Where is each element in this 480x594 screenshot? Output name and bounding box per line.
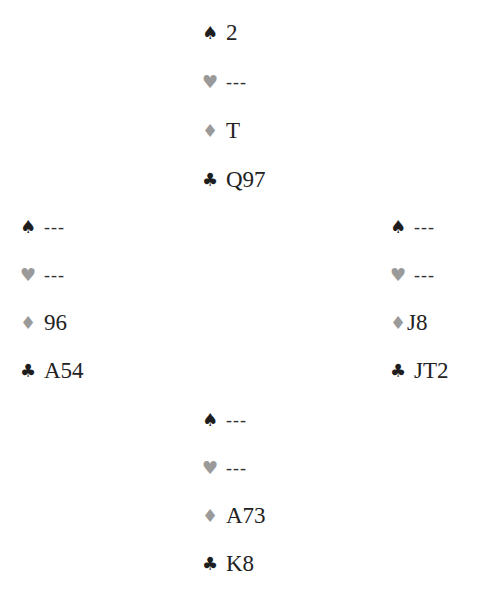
east-clubs-cards[interactable]: JT2: [414, 356, 449, 386]
club-icon: ♣: [20, 356, 44, 386]
club-icon: ♣: [390, 356, 414, 386]
spade-icon: ♠: [202, 18, 226, 48]
east-hearts-cards: ---: [414, 260, 435, 290]
west-diamonds-row: ♦ 96: [20, 308, 67, 338]
diamond-icon: ♦: [20, 308, 44, 338]
south-diamonds-cards[interactable]: A73: [226, 501, 266, 531]
spade-icon: ♠: [20, 212, 44, 242]
west-clubs-cards[interactable]: A54: [44, 356, 84, 386]
west-hearts-cards: ---: [44, 260, 65, 290]
spade-icon: ♠: [202, 405, 226, 435]
west-hearts-row: ♥ ---: [20, 260, 65, 290]
heart-icon: ♥: [202, 67, 226, 97]
north-spades-cards[interactable]: 2: [226, 18, 238, 48]
diamond-icon: ♦: [202, 501, 226, 531]
east-clubs-row: ♣ JT2: [390, 356, 449, 386]
diamond-icon: ♦: [202, 116, 226, 146]
north-hearts-row: ♥ ---: [202, 67, 247, 97]
north-spades-row: ♠ 2: [202, 18, 238, 48]
north-hearts-cards: ---: [226, 67, 247, 97]
heart-icon: ♥: [390, 260, 414, 290]
club-icon: ♣: [202, 165, 226, 195]
west-spades-row: ♠ ---: [20, 212, 65, 242]
north-diamonds-row: ♦ T: [202, 116, 240, 146]
west-spades-cards: ---: [44, 212, 65, 242]
north-clubs-cards[interactable]: Q97: [226, 165, 266, 195]
east-diamonds-row: ♦ J8: [390, 308, 427, 338]
east-spades-cards: ---: [414, 212, 435, 242]
club-icon: ♣: [202, 549, 226, 579]
south-clubs-cards[interactable]: K8: [226, 549, 254, 579]
north-diamonds-cards[interactable]: T: [226, 116, 240, 146]
south-clubs-row: ♣ K8: [202, 549, 254, 579]
spade-icon: ♠: [390, 212, 414, 242]
west-clubs-row: ♣ A54: [20, 356, 84, 386]
south-spades-row: ♠ ---: [202, 405, 247, 435]
south-diamonds-row: ♦ A73: [202, 501, 266, 531]
heart-icon: ♥: [202, 453, 226, 483]
north-clubs-row: ♣ Q97: [202, 165, 266, 195]
east-diamonds-cards[interactable]: J8: [407, 308, 427, 338]
south-hearts-row: ♥ ---: [202, 453, 247, 483]
heart-icon: ♥: [20, 260, 44, 290]
east-spades-row: ♠ ---: [390, 212, 435, 242]
south-spades-cards: ---: [226, 405, 247, 435]
west-diamonds-cards[interactable]: 96: [44, 308, 67, 338]
south-hearts-cards: ---: [226, 453, 247, 483]
east-hearts-row: ♥ ---: [390, 260, 435, 290]
diamond-icon: ♦: [390, 308, 407, 338]
